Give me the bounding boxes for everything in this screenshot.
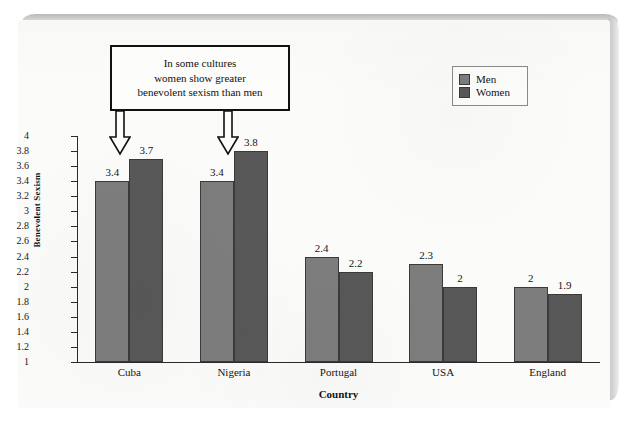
bar-value-usa-women: 2 — [435, 273, 485, 284]
y-tick-mark — [71, 347, 77, 348]
x-tick-label-england: England — [495, 366, 600, 378]
bar-england-men — [514, 287, 548, 362]
y-tick-label: 1.4 — [0, 327, 29, 337]
y-tick-mark — [71, 317, 77, 318]
x-axis-line — [77, 362, 600, 363]
y-tick-label: 1.2 — [0, 342, 29, 352]
y-tick-label: 1.8 — [0, 297, 29, 307]
annotation-line: benevolent sexism than men — [138, 86, 263, 98]
y-tick-mark — [71, 181, 77, 182]
x-tick-label-portugal: Portugal — [286, 366, 391, 378]
bar-nigeria-women — [234, 151, 268, 362]
y-tick-mark — [71, 226, 77, 227]
bar-nigeria-men — [200, 181, 234, 362]
y-tick-label: 2.2 — [0, 267, 29, 277]
y-tick-mark — [71, 332, 77, 333]
x-axis-title: Country — [77, 388, 600, 400]
bar-usa-women — [443, 287, 477, 362]
y-tick-label: 3.2 — [0, 191, 29, 201]
y-tick-mark — [71, 211, 77, 212]
legend-label-men: Men — [476, 74, 496, 85]
bar-cuba-men — [95, 181, 129, 362]
y-axis-line — [77, 136, 78, 363]
annotation-callout-box: In some cultureswomen show greaterbenevo… — [110, 45, 290, 111]
legend-label-women: Women — [476, 87, 510, 98]
y-tick-mark — [71, 362, 77, 363]
bar-cuba-women — [129, 159, 163, 362]
x-tick-label-cuba: Cuba — [77, 366, 182, 378]
legend-item-women: Women — [459, 87, 521, 98]
y-tick-mark — [71, 166, 77, 167]
y-tick-label: 2 — [0, 282, 29, 292]
y-tick-mark — [71, 272, 77, 273]
y-tick-mark — [71, 151, 77, 152]
y-tick-label: 3.4 — [0, 176, 29, 186]
chart-legend: Men Women — [452, 66, 528, 106]
annotation-arrow-nigeria-icon — [217, 111, 239, 156]
legend-swatch-men-icon — [459, 74, 470, 85]
y-tick-mark — [71, 196, 77, 197]
x-tick-label-nigeria: Nigeria — [182, 366, 287, 378]
y-tick-mark — [71, 257, 77, 258]
y-tick-label: 2.8 — [0, 221, 29, 231]
y-tick-mark — [71, 302, 77, 303]
y-tick-label: 3 — [0, 206, 29, 216]
y-tick-label: 3.6 — [0, 161, 29, 171]
bar-portugal-women — [339, 272, 373, 362]
legend-item-men: Men — [459, 74, 521, 85]
bar-portugal-men — [305, 257, 339, 362]
bar-england-women — [548, 294, 582, 362]
bar-value-portugal-women: 2.2 — [331, 258, 381, 269]
y-tick-label: 2.4 — [0, 252, 29, 262]
y-tick-label: 1.6 — [0, 312, 29, 322]
y-tick-label: 4 — [0, 131, 29, 141]
y-tick-label: 3.8 — [0, 146, 29, 156]
bar-value-portugal-men: 2.4 — [297, 243, 347, 254]
bar-value-england-women: 1.9 — [540, 280, 590, 291]
y-tick-mark — [71, 241, 77, 242]
annotation-line: In some cultures — [164, 57, 237, 69]
scanned-page: 43.83.63.43.232.82.62.42.221.81.61.41.21… — [0, 0, 640, 430]
y-tick-label: 1 — [0, 357, 29, 367]
legend-swatch-women-icon — [459, 87, 470, 98]
annotation-arrow-cuba-icon — [109, 111, 131, 156]
annotation-callout-text: In some cultureswomen show greaterbenevo… — [132, 56, 269, 101]
bar-value-usa-men: 2.3 — [401, 250, 451, 261]
y-tick-label: 2.6 — [0, 236, 29, 246]
y-tick-mark — [71, 136, 77, 137]
y-axis-title: Benevolent Sexism — [32, 150, 42, 270]
y-tick-mark — [71, 287, 77, 288]
annotation-line: women show greater — [154, 72, 246, 84]
x-tick-label-usa: USA — [391, 366, 496, 378]
bar-chart-figure: 43.83.63.43.232.82.62.42.221.81.61.41.21… — [18, 20, 610, 408]
